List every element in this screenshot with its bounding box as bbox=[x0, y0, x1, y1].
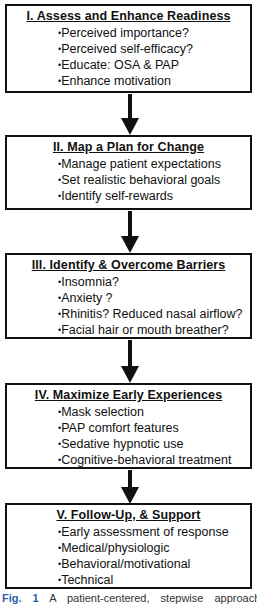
list-item: Medical/physiologic bbox=[58, 540, 250, 556]
step-title-3: III. Identify & Overcome Barriers bbox=[7, 258, 250, 273]
figure-caption: Fig. 1 A patient-centered, stepwise appr… bbox=[2, 592, 257, 604]
step-items-5: Early assessment of response Medical/phy… bbox=[7, 524, 250, 588]
list-item: Manage patient expectations bbox=[58, 156, 250, 172]
list-item: Mask selection bbox=[58, 404, 250, 420]
list-item: Sedative hypnotic use bbox=[58, 436, 250, 452]
step-items-4: Mask selection PAP comfort features Seda… bbox=[7, 404, 250, 468]
list-item: Insomnia? bbox=[58, 274, 250, 290]
list-item: Educate: OSA & PAP bbox=[58, 57, 250, 73]
list-item: Anxiety ? bbox=[58, 290, 250, 306]
step-items-3: Insomnia? Anxiety ? Rhinitis? Reduced na… bbox=[7, 274, 250, 338]
step-box-4: IV. Maximize Early Experiences Mask sele… bbox=[5, 383, 252, 469]
step-items-1: Perceived importance? Perceived self-eff… bbox=[7, 25, 250, 89]
step-items-2: Manage patient expectations Set realisti… bbox=[7, 156, 250, 204]
list-item: Set realistic behavioral goals bbox=[58, 172, 250, 188]
list-item: Technical bbox=[58, 572, 250, 588]
step-title-5: V. Follow-Up, & Support bbox=[7, 508, 250, 523]
step-title-2: II. Map a Plan for Change bbox=[7, 140, 250, 155]
list-item: Perceived importance? bbox=[58, 25, 250, 41]
step-box-1: I. Assess and Enhance Readiness Perceive… bbox=[5, 4, 252, 93]
figure-label: Fig. 1 bbox=[2, 592, 39, 604]
figure-caption-text: A patient-centered, stepwise approach to bbox=[49, 592, 257, 604]
list-item: PAP comfort features bbox=[58, 420, 250, 436]
step-box-3: III. Identify & Overcome Barriers Insomn… bbox=[5, 253, 252, 339]
list-item: Enhance motivation bbox=[58, 73, 250, 89]
step-title-4: IV. Maximize Early Experiences bbox=[7, 388, 250, 403]
list-item: Behavioral/motivational bbox=[58, 556, 250, 572]
step-title-1: I. Assess and Enhance Readiness bbox=[7, 9, 250, 24]
step-box-5: V. Follow-Up, & Support Early assessment… bbox=[5, 503, 252, 589]
down-arrow-icon bbox=[121, 94, 139, 135]
list-item: Rhinitis? Reduced nasal airflow? bbox=[58, 306, 250, 322]
list-item: Perceived self-efficacy? bbox=[58, 41, 250, 57]
down-arrow-icon bbox=[121, 340, 139, 383]
list-item: Cognitive-behavioral treatment bbox=[58, 452, 250, 468]
down-arrow-icon bbox=[121, 470, 139, 504]
down-arrow-icon bbox=[121, 211, 139, 253]
list-item: Identify self-rewards bbox=[58, 188, 250, 204]
list-item: Early assessment of response bbox=[58, 524, 250, 540]
step-box-2: II. Map a Plan for Change Manage patient… bbox=[5, 135, 252, 210]
list-item: Facial hair or mouth breather? bbox=[58, 322, 250, 338]
